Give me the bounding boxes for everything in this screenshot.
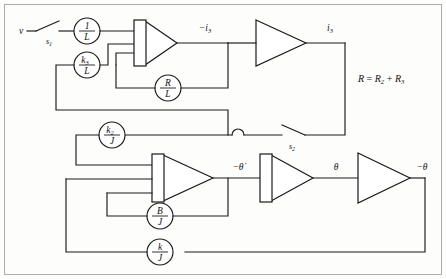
schematic-svg: 1 L k3 L −i3 R L i3 bbox=[0, 0, 446, 279]
wire-negative-theta-to-potkJ bbox=[185, 178, 425, 252]
integrator-speed-triangle[interactable] bbox=[163, 155, 213, 201]
wire-crossing-hop bbox=[232, 129, 244, 135]
inverter-current-triangle[interactable] bbox=[256, 20, 306, 66]
inverter-angle-triangle[interactable] bbox=[358, 153, 410, 203]
circuit-diagram-canvas: 1 L k3 L −i3 R L i3 bbox=[0, 0, 446, 279]
pot-1-over-L-numerator: 1 bbox=[85, 21, 90, 31]
label-negative-theta: −θ bbox=[416, 162, 427, 172]
pot-1-over-L-denominator: L bbox=[83, 32, 89, 42]
label-i3: i3 bbox=[327, 23, 334, 34]
integrator-speed-summing-bar[interactable] bbox=[152, 154, 164, 202]
switch-s2-label: s2 bbox=[289, 142, 295, 152]
wire-RL-feedback-right bbox=[181, 43, 228, 88]
label-input-voltage: v bbox=[19, 26, 24, 36]
switch-s2-blade[interactable] bbox=[282, 125, 305, 135]
label-negative-theta-dot: −θ̇ bbox=[232, 162, 246, 172]
wire-i3-down-to-s2 bbox=[305, 43, 345, 135]
integrator-current-summing-bar[interactable] bbox=[134, 20, 146, 66]
wire-potk3L-to-sum2 bbox=[100, 44, 134, 65]
label-theta: θ bbox=[334, 162, 339, 172]
integrator-current-triangle[interactable] bbox=[145, 21, 177, 65]
label-negative-i3: −i3 bbox=[199, 23, 212, 34]
switch-s1-blade[interactable] bbox=[36, 21, 59, 31]
integrator-angle-summing-bar[interactable] bbox=[260, 154, 272, 202]
pot-R-over-L-numerator: R bbox=[164, 78, 171, 88]
wire-RL-feedback-to-sum3 bbox=[116, 53, 134, 65]
annotation-resistance-equation: R = R2 + R3 bbox=[357, 73, 405, 85]
pot-B-over-J-numerator: B bbox=[157, 206, 163, 216]
pot-k3-over-L-denominator: L bbox=[83, 66, 89, 76]
wire-BJ-feedback-left bbox=[107, 193, 147, 216]
wire-RL-feedback-left bbox=[116, 65, 155, 88]
switch-s1-label: s1 bbox=[46, 37, 52, 47]
figure-border bbox=[5, 5, 442, 275]
pot-R-over-L-denominator: L bbox=[164, 89, 170, 99]
integrator-angle-triangle[interactable] bbox=[271, 155, 313, 201]
